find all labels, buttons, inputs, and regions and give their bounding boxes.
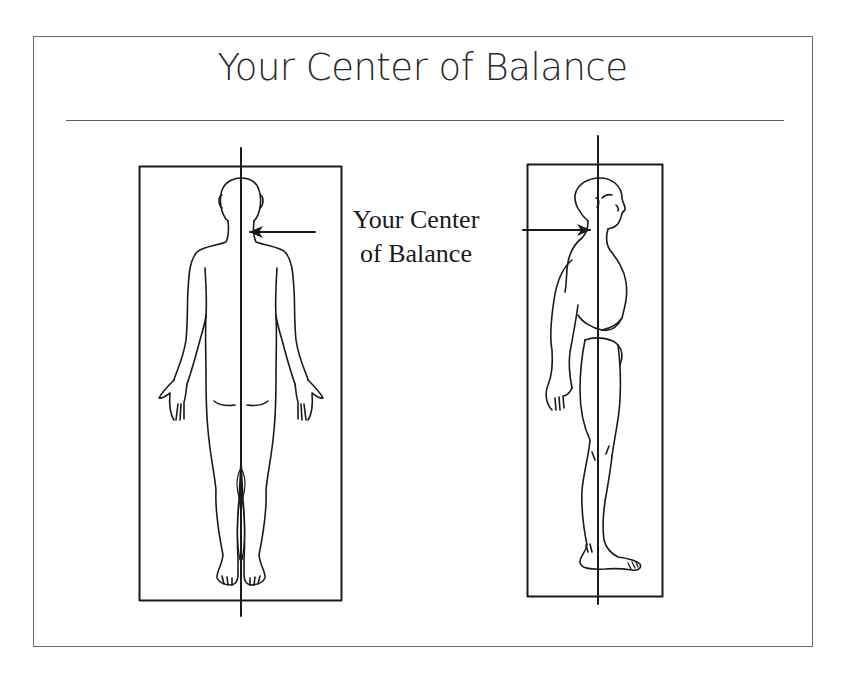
lateral-figure-group xyxy=(523,136,663,604)
posterior-figure-group xyxy=(140,148,342,616)
body-diagrams xyxy=(0,0,845,680)
lateral-body-outline xyxy=(546,178,640,570)
